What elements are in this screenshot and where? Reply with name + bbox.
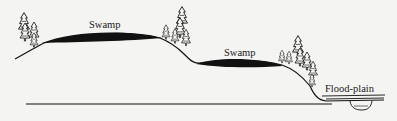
label-floodplain: Flood-plain [325, 83, 375, 94]
lower-swamp-lens [196, 59, 283, 67]
trees-left [19, 13, 40, 48]
label-swamp-upper: Swamp [89, 19, 121, 30]
trees-bank [279, 36, 318, 87]
landscape-cross-section: Swamp Swamp Flood-plain [0, 0, 397, 121]
floodplain-surface [322, 95, 385, 110]
trees-hill [162, 7, 191, 46]
label-swamp-lower: Swamp [224, 47, 256, 58]
upper-swamp-lens [42, 32, 162, 43]
